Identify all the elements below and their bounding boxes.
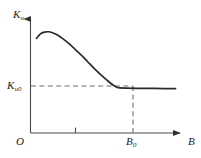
y-axis-tick-label-ku0: Ku0 (7, 80, 21, 91)
x-axis-tick-label-b0: B0 (126, 136, 136, 147)
origin-label: O (16, 136, 24, 147)
x-axis-label: B (188, 136, 195, 147)
chart-figure: Ku Ku0 O B0 B (0, 0, 201, 158)
y-axis-label: Ku (13, 9, 24, 20)
chart-plot-area (0, 0, 201, 158)
data-curve (36, 32, 175, 89)
